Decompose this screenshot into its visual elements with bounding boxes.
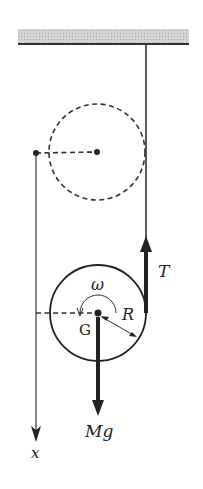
radius-label: R (121, 305, 134, 324)
x-axis-label: x (31, 444, 40, 462)
initial-level-dashed-line (36, 152, 97, 153)
tension-arrowhead-icon (140, 236, 152, 252)
weight-arrowhead-icon (92, 400, 104, 416)
center-of-mass-dot (95, 310, 102, 317)
center-of-mass-label: G (79, 321, 91, 339)
initial-center-dot (94, 149, 100, 155)
yoyo-diagram: x ω G R T Mg (0, 0, 203, 489)
omega-label: ω (91, 275, 104, 294)
tension-arrow (140, 236, 152, 313)
tension-label: T (158, 261, 171, 281)
x-axis (31, 153, 41, 442)
weight-label: Mg (84, 421, 113, 441)
ceiling (18, 29, 189, 44)
weight-arrow (92, 317, 104, 416)
